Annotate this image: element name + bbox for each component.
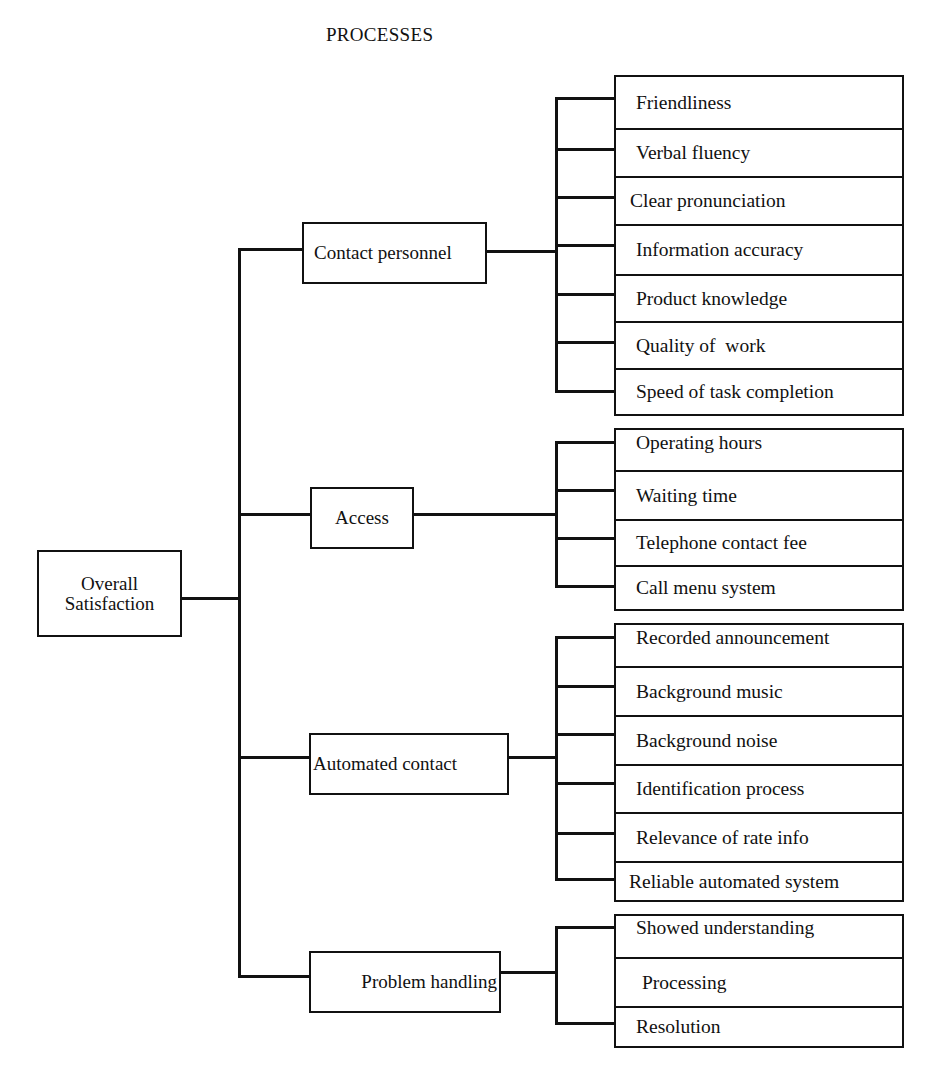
connector-root-to-trunk <box>181 597 241 600</box>
category-label: Contact personnel <box>314 243 452 263</box>
tick <box>555 244 615 247</box>
tick <box>555 537 615 540</box>
item-verbal-fluency: Verbal fluency <box>616 128 902 176</box>
item-background-music: Background music <box>616 666 902 715</box>
category-node-automated-contact: Automated contact <box>309 733 509 795</box>
item-speed-of-task-completion: Speed of task completion <box>616 368 902 414</box>
connector-trunk <box>238 248 241 977</box>
tick <box>555 1022 615 1025</box>
branch-automated-contact <box>555 636 558 880</box>
item-product-knowledge: Product knowledge <box>616 274 902 321</box>
branch-problem-handling <box>555 926 558 1024</box>
item-call-menu-system: Call menu system <box>616 565 902 609</box>
tick <box>555 293 615 296</box>
item-group-problem-handling: Showed understanding Processing Resoluti… <box>614 914 904 1048</box>
item-group-automated-contact: Recorded announcement Background music B… <box>614 623 904 902</box>
tick <box>555 97 615 100</box>
category-label: Automated contact <box>313 754 457 774</box>
tick <box>555 585 615 588</box>
item-waiting-time: Waiting time <box>616 470 902 519</box>
root-label-line-1: Overall <box>81 574 138 594</box>
item-background-noise: Background noise <box>616 715 902 764</box>
tick <box>555 148 615 151</box>
item-clear-pronunciation: Clear pronunciation <box>616 176 902 224</box>
connector-trunk-to-access <box>238 513 311 516</box>
root-node-overall-satisfaction: Overall Satisfaction <box>37 550 182 637</box>
diagram-title: PROCESSES <box>326 24 433 46</box>
connector-automated-contact-to-branch <box>508 756 557 759</box>
item-quality-of-work: Quality of work <box>616 321 902 368</box>
category-node-access: Access <box>310 487 414 549</box>
tick <box>555 489 615 492</box>
tick <box>555 685 615 688</box>
item-relevance-of-rate-info: Relevance of rate info <box>616 812 902 861</box>
tick <box>555 341 615 344</box>
item-group-contact-personnel: Friendliness Verbal fluency Clear pronun… <box>614 75 904 416</box>
item-processing: Processing <box>616 957 902 1006</box>
tick <box>555 636 615 639</box>
item-showed-understanding: Showed understanding <box>616 916 902 957</box>
branch-access <box>555 441 558 587</box>
tick <box>555 926 615 929</box>
connector-access-to-branch <box>413 513 557 516</box>
item-reliable-automated-system: Reliable automated system <box>616 861 902 900</box>
item-identification-process: Identification process <box>616 764 902 812</box>
item-recorded-announcement: Recorded announcement <box>616 625 902 666</box>
tick <box>555 878 615 881</box>
item-friendliness: Friendliness <box>616 77 902 128</box>
connector-contact-personnel-to-branch <box>486 250 557 253</box>
tick <box>555 390 615 393</box>
item-telephone-contact-fee: Telephone contact fee <box>616 519 902 565</box>
category-node-problem-handling: Problem handling <box>309 951 501 1013</box>
tick <box>555 733 615 736</box>
tick <box>555 441 615 444</box>
connector-trunk-to-contact-personnel <box>238 248 304 251</box>
root-label-line-2: Satisfaction <box>65 594 155 614</box>
connector-trunk-to-automated-contact <box>238 756 311 759</box>
item-information-accuracy: Information accuracy <box>616 224 902 274</box>
connector-problem-handling-to-branch <box>500 971 557 974</box>
item-group-access: Operating hours Waiting time Telephone c… <box>614 428 904 611</box>
category-node-contact-personnel: Contact personnel <box>302 222 487 284</box>
category-label: Access <box>335 508 389 528</box>
tick <box>555 196 615 199</box>
item-resolution: Resolution <box>616 1006 902 1046</box>
tick <box>555 832 615 835</box>
tick <box>555 782 615 785</box>
connector-trunk-to-problem-handling <box>238 975 311 978</box>
category-label: Problem handling <box>361 972 497 992</box>
item-operating-hours: Operating hours <box>616 430 902 470</box>
